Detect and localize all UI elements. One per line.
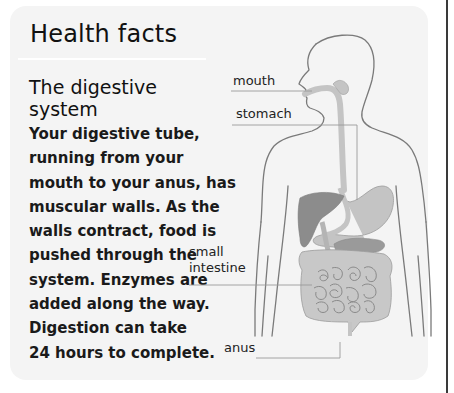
label-anus: anus xyxy=(224,340,255,355)
digestive-tube xyxy=(305,80,349,190)
label-small-intestine-line: intestine xyxy=(189,260,246,276)
label-small-intestine-line: small xyxy=(189,244,246,260)
label-small-intestine: small intestine xyxy=(189,244,246,276)
label-stomach: stomach xyxy=(236,106,292,121)
digestive-system-diagram xyxy=(0,0,454,393)
label-mouth: mouth xyxy=(233,73,275,88)
large-intestine-shape xyxy=(299,250,392,332)
